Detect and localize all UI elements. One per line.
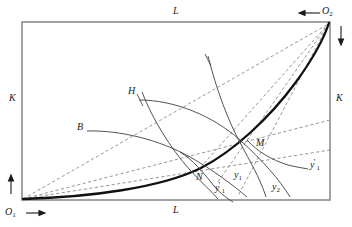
o1-arrow-right-head xyxy=(39,211,45,216)
curve-label-y1pr-sub: 1 xyxy=(316,164,320,172)
o2-arrow-down-head xyxy=(339,39,344,45)
point-label-H: H xyxy=(128,86,135,96)
curve-label-y2-sub: 2 xyxy=(276,186,280,194)
origin-o2-label: O2 xyxy=(322,6,333,16)
curve-label-y1p-sub: 1 xyxy=(221,187,225,195)
curve-label-y1: y1 xyxy=(234,170,242,180)
origin-o1-sub: 1 xyxy=(12,211,16,219)
edgeworth-box-figure: L L K K O2 O1 H B M N y1 y′1 y2 y′1 xyxy=(0,0,352,227)
curve-y1-short xyxy=(180,152,233,202)
curve-label-y2: y2 xyxy=(272,182,280,192)
axis-label-top-L: L xyxy=(173,6,179,16)
ray-o1-upper xyxy=(23,23,330,199)
origin-o1-label: O1 xyxy=(5,207,16,217)
curve-label-y1-prime-lower: y′1 xyxy=(215,183,225,193)
axis-label-right-K: K xyxy=(336,93,343,103)
curve-label-y1-sub: 1 xyxy=(238,174,242,182)
ray-o1-lower xyxy=(23,150,330,199)
curve-label-y1-prime-right: y′1 xyxy=(310,160,320,170)
rays-to-o2 xyxy=(200,23,329,196)
rays-from-o1 xyxy=(23,23,330,199)
point-label-M: M xyxy=(256,138,264,148)
o1-arrow-up-head xyxy=(9,175,14,181)
axis-label-left-K: K xyxy=(9,93,16,103)
o2-arrow-left-head xyxy=(299,11,305,16)
origin-o2-sub: 2 xyxy=(329,10,333,18)
point-label-B: B xyxy=(77,122,83,132)
axis-label-bottom-L: L xyxy=(173,205,179,215)
diagram-canvas xyxy=(0,0,352,227)
tick-upper-ray xyxy=(205,54,211,66)
point-label-N: N xyxy=(196,172,203,182)
